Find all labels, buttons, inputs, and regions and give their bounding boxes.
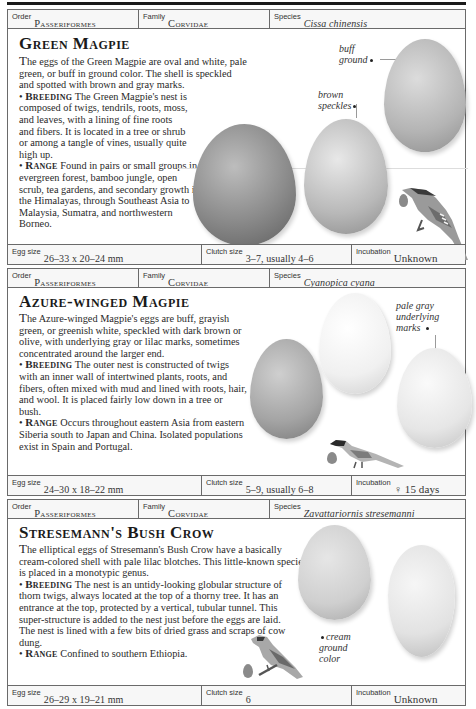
family-label: Family xyxy=(143,271,165,280)
egg-size-label: Egg size xyxy=(12,478,41,487)
clutch-size-cell: Clutch size3–7, usually 4–6 xyxy=(202,245,352,264)
species-value: Cissa chinensis xyxy=(304,18,367,28)
egg-size-value: 26–29 x 19–21 mm xyxy=(44,694,124,705)
range-heading: Range xyxy=(25,647,58,659)
range-heading: Range xyxy=(25,416,58,428)
card-body: Stresemann's Bush Crow The elliptical eg… xyxy=(8,519,465,685)
clutch-size-value: 5–9, usually 6–8 xyxy=(246,484,314,495)
leader-dot-icon xyxy=(426,327,429,330)
species-card-stresemanns-bush-crow: OrderPasseriformes FamilyCorvidae Specie… xyxy=(7,499,466,706)
species-title: Green Magpie xyxy=(19,34,130,54)
drop-cap: T xyxy=(19,310,27,325)
species-label: Species xyxy=(274,502,301,511)
annotation-line: marks xyxy=(396,322,420,333)
clutch-size-value: 3–7, usually 4–6 xyxy=(246,253,314,264)
egg-size-label: Egg size xyxy=(12,247,41,256)
incubation-cell: IncubationUnknown xyxy=(352,245,465,264)
azure-winged-magpie-bird-icon xyxy=(328,438,406,470)
annotation-line: speckles xyxy=(318,100,351,111)
breeding-paragraph: • Breeding The Green Magpie's nest is co… xyxy=(19,91,189,161)
order-cell: OrderPasseriformes xyxy=(8,10,139,28)
egg-size-cell: Egg size24–30 x 18–22 mm xyxy=(8,476,202,495)
leader-dot-icon xyxy=(370,59,373,62)
breeding-heading: Breeding xyxy=(25,358,72,370)
annotation-pale-gray-underlying-marks: pale gray underlying marks xyxy=(396,300,439,333)
annotation-line: buff xyxy=(339,43,375,54)
egg-image-pale-gray-marks xyxy=(397,348,472,448)
family-value: Corvidae xyxy=(168,508,208,518)
species-value: Cyanopica cyana xyxy=(304,277,375,287)
clutch-size-value: 6 xyxy=(246,694,251,705)
clutch-size-cell: Clutch size6 xyxy=(202,686,352,705)
egg-facts-row: Egg size26–29 x 19–21 mm Clutch size6 In… xyxy=(8,685,465,705)
incubation-label: Incubation xyxy=(356,247,391,256)
order-value: Passeriformes xyxy=(34,18,96,28)
egg-image-greenish-white xyxy=(319,293,391,394)
family-label: Family xyxy=(143,12,165,21)
annotation-line: color xyxy=(319,653,351,664)
annotation-line: ground xyxy=(339,54,368,65)
order-cell: OrderPasseriformes xyxy=(8,269,139,287)
range-paragraph: • Range Occurs throughout eastern Asia f… xyxy=(19,417,251,452)
taxonomy-row: OrderPasseriformes FamilyCorvidae Specie… xyxy=(8,500,465,519)
range-text: Confined to southern Ethiopia. xyxy=(58,648,188,659)
species-title: Azure-winged Magpie xyxy=(19,292,189,312)
annotation-line: cream xyxy=(326,631,351,642)
clutch-size-label: Clutch size xyxy=(206,478,243,487)
egg-facts-row: Egg size24–30 x 18–22 mm Clutch size5–9,… xyxy=(8,475,465,495)
clutch-size-label: Clutch size xyxy=(206,247,243,256)
species-card-azure-winged-magpie: OrderPasseriformes FamilyCorvidae Specie… xyxy=(7,268,466,496)
bush-crow-bird-icon xyxy=(247,631,305,683)
annotation-line: brown xyxy=(318,89,358,100)
intro-paragraph: The eggs of the Green Magpie are oval an… xyxy=(19,55,249,91)
species-title: Stresemann's Bush Crow xyxy=(19,523,214,543)
breeding-heading: Breeding xyxy=(25,90,72,102)
intro-paragraph: The elliptical eggs of Stresemann's Bush… xyxy=(19,543,307,579)
annotation-cream-ground-color: cream ground color xyxy=(319,631,351,664)
order-label: Order xyxy=(12,271,31,280)
species-label: Species xyxy=(274,271,301,280)
breeding-heading: Breeding xyxy=(25,578,72,590)
intro-text: he elliptical eggs of Stresemann's Bush … xyxy=(19,544,307,578)
range-heading: Range xyxy=(25,159,58,171)
family-cell: FamilyCorvidae xyxy=(139,500,270,518)
taxonomy-row: OrderPasseriformes FamilyCorvidae Specie… xyxy=(8,269,465,288)
order-value: Passeriformes xyxy=(34,277,96,287)
annotation-line: underlying xyxy=(396,311,439,322)
egg-size-cell: Egg size26–29 x 19–21 mm xyxy=(8,686,202,705)
annotation-line: ground xyxy=(319,642,351,653)
intro-text: he eggs of the Green Magpie are oval and… xyxy=(19,56,247,90)
order-value: Passeriformes xyxy=(34,508,96,518)
range-paragraph: • Range Found in pairs or small groups i… xyxy=(19,160,204,230)
leader-dot-icon xyxy=(321,636,324,639)
taxonomy-row: OrderPasseriformes FamilyCorvidae Specie… xyxy=(8,10,465,29)
order-cell: OrderPasseriformes xyxy=(8,500,139,518)
species-cell: SpeciesCissa chinensis xyxy=(270,10,465,28)
egg-image-cream-elongated xyxy=(388,545,455,657)
clutch-size-label: Clutch size xyxy=(206,688,243,697)
annotation-brown-speckles: brown speckles xyxy=(318,89,358,111)
egg-facts-row: Egg size26–33 x 20–24 mm Clutch size3–7,… xyxy=(8,244,465,264)
incubation-label: Incubation xyxy=(356,688,391,697)
annotation-buff-ground: buff ground xyxy=(339,43,375,65)
egg-size-cell: Egg size26–33 x 20–24 mm xyxy=(8,245,202,264)
annotation-line: pale gray xyxy=(396,300,439,311)
family-value: Corvidae xyxy=(168,18,208,28)
egg-size-value: 26–33 x 20–24 mm xyxy=(44,253,124,264)
order-label: Order xyxy=(12,502,31,511)
species-cell: SpeciesCyanopica cyana xyxy=(270,269,465,287)
species-card-green-magpie: OrderPasseriformes FamilyCorvidae Specie… xyxy=(7,9,466,265)
card-body: Azure-winged Magpie The Azure-winged Mag… xyxy=(8,288,465,475)
intro-paragraph: The Azure-winged Magpie's eggs are buff,… xyxy=(19,312,252,359)
egg-image-speckled-light xyxy=(304,119,388,234)
species-value: Zavattariornis stresemanni xyxy=(304,508,415,518)
breeding-paragraph: • Breeding The outer nest is constructed… xyxy=(19,359,247,417)
family-label: Family xyxy=(143,502,165,511)
incubation-value: ♀ 15 days xyxy=(394,483,440,495)
drop-cap: T xyxy=(19,541,27,556)
leader-line xyxy=(356,104,357,118)
egg-image-speckled-dark xyxy=(193,124,296,246)
description: The Azure-winged Magpie's eggs are buff,… xyxy=(19,312,252,452)
incubation-cell: IncubationUnknown xyxy=(352,686,465,705)
family-cell: FamilyCorvidae xyxy=(139,10,270,28)
